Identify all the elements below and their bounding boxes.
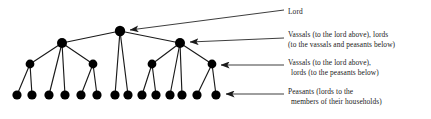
node-peasant: [44, 90, 53, 99]
node-peasant: [151, 90, 160, 99]
node-lesser-vassal-2: [89, 60, 98, 69]
tree-nodes: [12, 26, 220, 100]
node-lord: [115, 26, 125, 36]
node-peasant: [27, 90, 36, 99]
arrow-to-lord-icon: [130, 10, 284, 30]
feudal-hierarchy-diagram: Lord Vassals (to the lord above), lords …: [0, 0, 431, 119]
node-peasant: [123, 90, 132, 99]
node-peasant: [12, 90, 21, 99]
node-peasant: [110, 90, 119, 99]
vassals-lower-label-line-1: Vassals (to the lord above),: [288, 58, 379, 68]
peasants-label-line-2: members of their households): [288, 97, 382, 107]
node-peasant: [60, 90, 69, 99]
node-lesser-vassal-3: [148, 60, 157, 69]
lord-label-line-1: Lord: [288, 7, 303, 17]
node-peasant: [177, 90, 186, 99]
node-peasant: [192, 90, 201, 99]
node-great-vassal-1: [57, 38, 67, 48]
peasants-label: Peasants (lords to the members of their …: [288, 87, 382, 106]
vassals-upper-label-line-2: (to the vassals and peasants below): [288, 40, 395, 50]
peasants-label-line-1: Peasants (lords to the: [288, 87, 382, 97]
node-peasant: [92, 90, 101, 99]
node-lesser-vassal-4: [208, 60, 217, 69]
vassals-lower-label-line-2: lords (to the peasants below): [288, 68, 379, 78]
node-peasant: [137, 90, 146, 99]
vassals-lower-label: Vassals (to the lord above), lords (to t…: [288, 58, 379, 77]
node-peasant: [76, 90, 85, 99]
node-great-vassal-2: [175, 38, 185, 48]
vassals-upper-label-line-1: Vassals (to the lord above), lords: [288, 30, 395, 40]
node-peasant: [211, 90, 220, 99]
callout-arrows: [130, 10, 284, 94]
lord-label: Lord: [288, 7, 303, 17]
tree-edges: [17, 31, 216, 95]
vassals-upper-label: Vassals (to the lord above), lords (to t…: [288, 30, 395, 49]
node-peasant: [165, 90, 174, 99]
arrow-to-vassals-upper-icon: [190, 38, 284, 42]
node-lesser-vassal-1: [26, 60, 35, 69]
